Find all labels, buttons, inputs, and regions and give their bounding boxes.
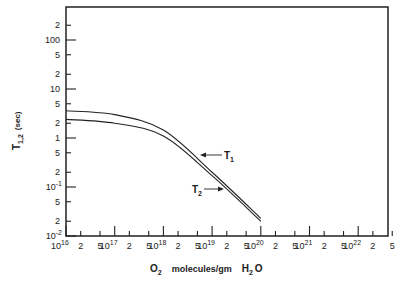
y-tick-label: 2 bbox=[55, 69, 60, 79]
y-tick-label: 5 bbox=[55, 99, 60, 109]
chart: 1016251017251018251019251020251021251022… bbox=[0, 0, 403, 287]
svg-text:T1: T1 bbox=[224, 150, 234, 163]
series-t2-line bbox=[66, 119, 261, 221]
t1-annotation: T1 bbox=[200, 150, 234, 163]
y-tick-label: 5 bbox=[55, 50, 60, 60]
y-tick-label: 2 bbox=[55, 118, 60, 128]
y-tick-label: 2 bbox=[55, 167, 60, 177]
series-lines bbox=[66, 111, 261, 222]
plot-frame bbox=[66, 7, 388, 236]
y-axis-title: T1,2(sec) bbox=[11, 111, 25, 150]
arrow-left-icon bbox=[200, 153, 206, 158]
y-tick-label: 100 bbox=[45, 35, 60, 45]
x-tick-label: 1020 bbox=[246, 239, 264, 251]
x-tick-label: 1019 bbox=[197, 239, 215, 251]
x-tick-label: 2 bbox=[78, 241, 83, 251]
y-tick-label: 10 bbox=[50, 84, 60, 94]
x-tick-label: 2 bbox=[127, 241, 132, 251]
y-tick-label: 10-2 bbox=[46, 229, 62, 241]
y-tick-label: 10-1 bbox=[46, 180, 62, 192]
y-axis-ticks: 10-22510-12512510251002 bbox=[45, 20, 76, 241]
x-tick-label: 2 bbox=[322, 241, 327, 251]
x-tick-label: 2 bbox=[224, 241, 229, 251]
y-tick-label: 2 bbox=[55, 20, 60, 30]
x-tick-label: 1017 bbox=[100, 239, 118, 251]
x-tick-label: 1018 bbox=[148, 239, 166, 251]
t2-annotation: T2 bbox=[192, 184, 224, 197]
y-tick-label: 2 bbox=[55, 216, 60, 226]
x-tick-label: 2 bbox=[176, 241, 181, 251]
x-tick-label: 1021 bbox=[295, 239, 313, 251]
y-tick-label: 5 bbox=[55, 148, 60, 158]
series-t1-line bbox=[66, 111, 261, 219]
x-tick-label: 5 bbox=[390, 241, 395, 251]
arrow-right-icon bbox=[218, 187, 224, 192]
x-tick-label: 1022 bbox=[343, 239, 361, 251]
y-tick-label: 5 bbox=[55, 197, 60, 207]
x-tick-label: 2 bbox=[273, 241, 278, 251]
x-tick-label: 2 bbox=[370, 241, 375, 251]
x-axis-ticks: 1016251017251018251019251020251021251022… bbox=[51, 226, 395, 251]
svg-text:T2: T2 bbox=[192, 184, 202, 197]
x-axis-title: O2molecules/gmH2O bbox=[150, 263, 263, 276]
y-tick-label: 1 bbox=[55, 133, 60, 143]
